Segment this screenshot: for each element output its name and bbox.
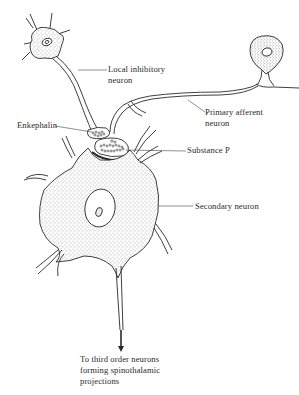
output-axon bbox=[116, 266, 123, 348]
label-output-line3: projections bbox=[80, 376, 160, 387]
label-output-projections: To third order neurons forming spinothal… bbox=[80, 354, 160, 387]
label-output-line2: forming spinothalamic bbox=[80, 365, 160, 376]
primary-afferent-neuron bbox=[92, 36, 299, 161]
label-local-inhibitory-line2: neuron bbox=[108, 75, 165, 86]
label-primary-afferent-line2: neuron bbox=[205, 118, 263, 129]
label-output-line1: To third order neurons bbox=[80, 354, 160, 365]
label-substance-p: Substance P bbox=[187, 145, 230, 156]
label-enkephalin: Enkephalin bbox=[17, 120, 57, 131]
label-local-inhibitory-neuron: Local inhibitory neuron bbox=[108, 64, 165, 86]
secondary-neuron bbox=[40, 148, 159, 278]
label-secondary-neuron: Secondary neuron bbox=[195, 201, 259, 212]
arrow-down-icon bbox=[118, 346, 124, 352]
label-local-inhibitory-line1: Local inhibitory bbox=[108, 64, 165, 75]
neuron-diagram: Local inhibitory neuron Primary afferent… bbox=[0, 0, 299, 395]
label-primary-afferent-neuron: Primary afferent neuron bbox=[205, 107, 263, 129]
diagram-drawing bbox=[0, 0, 299, 395]
label-primary-afferent-line1: Primary afferent bbox=[205, 107, 263, 118]
